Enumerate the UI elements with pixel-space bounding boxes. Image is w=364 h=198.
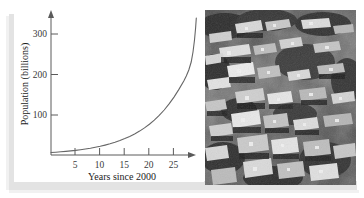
y-axis-title: Population (billions) — [19, 43, 31, 126]
figure-root: 100 200 300 5 10 15 20 25 Years since 20… — [0, 0, 364, 198]
photo-svg — [205, 10, 356, 185]
chart-svg: 100 200 300 5 10 15 20 25 Years since 20… — [14, 4, 204, 182]
y-tick-label-300: 300 — [33, 29, 48, 39]
y-tick-label-100: 100 — [33, 110, 48, 120]
x-tick-label-5: 5 — [73, 160, 78, 170]
population-growth-chart: 100 200 300 5 10 15 20 25 Years since 20… — [14, 4, 204, 182]
y-tick-label-200: 200 — [33, 70, 48, 80]
hillside-settlement-photo — [205, 10, 356, 185]
x-tick-label-10: 10 — [95, 160, 105, 170]
x-tick-label-20: 20 — [144, 160, 154, 170]
photo-grain — [205, 10, 356, 185]
x-tick-label-15: 15 — [119, 160, 129, 170]
x-axis-title: Years since 2000 — [88, 171, 156, 182]
x-tick-label-25: 25 — [169, 160, 179, 170]
frame-shadow-bottom-fade — [9, 190, 359, 193]
